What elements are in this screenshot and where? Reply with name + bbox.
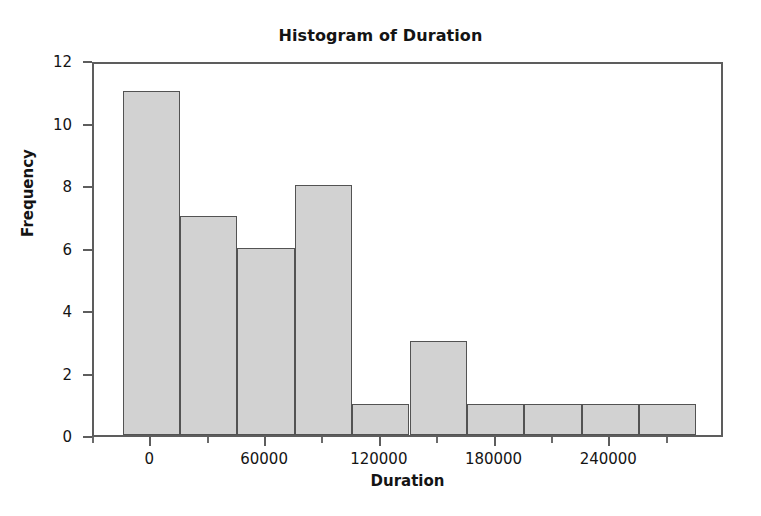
x-tick-mark [379,437,381,446]
histogram-bar [237,248,294,436]
y-tick-label: 0 [62,428,72,446]
plot-area [92,62,723,437]
y-tick-mark [83,249,92,251]
x-tick-label: 120000 [350,450,407,468]
y-tick-label: 12 [53,53,72,71]
x-axis-labels: 060000120000180000240000 [92,450,723,472]
x-tick-mark [149,437,151,446]
x-tick-label: 0 [145,450,155,468]
x-axis-title: Duration [92,472,723,490]
y-tick-mark [83,124,92,126]
y-tick-label: 8 [62,178,72,196]
x-tick-mark-minor [321,437,323,443]
bars-layer [94,64,721,435]
x-axis-ticks [92,437,723,449]
y-tick-label: 10 [53,116,72,134]
histogram-bar [295,185,352,435]
y-axis: 024681012 [0,0,92,516]
histogram-bar [410,341,467,435]
histogram-figure: Histogram of Duration 024681012 Frequenc… [0,0,761,516]
y-tick-mark [83,186,92,188]
y-axis-title: Frequency [19,113,37,273]
x-tick-mark [494,437,496,446]
x-tick-mark-minor [666,437,668,443]
y-tick-mark [83,61,92,63]
histogram-bar [467,404,524,435]
x-tick-label: 180000 [465,450,522,468]
x-tick-mark-minor [551,437,553,443]
histogram-bar [180,216,237,435]
histogram-bar [639,404,696,435]
y-tick-mark [83,374,92,376]
x-tick-mark-minor [92,437,94,443]
x-tick-mark-minor [207,437,209,443]
x-tick-label: 60000 [240,450,288,468]
x-tick-mark [264,437,266,446]
histogram-bar [123,91,180,435]
x-tick-mark [608,437,610,446]
histogram-bar [582,404,639,435]
chart-title: Histogram of Duration [0,26,761,45]
histogram-bar [352,404,409,435]
x-tick-label: 240000 [580,450,637,468]
y-tick-mark [83,436,92,438]
x-tick-mark-minor [436,437,438,443]
histogram-bar [524,404,581,435]
y-tick-mark [83,311,92,313]
y-tick-label: 6 [62,241,72,259]
y-tick-label: 4 [62,303,72,321]
y-tick-label: 2 [62,366,72,384]
